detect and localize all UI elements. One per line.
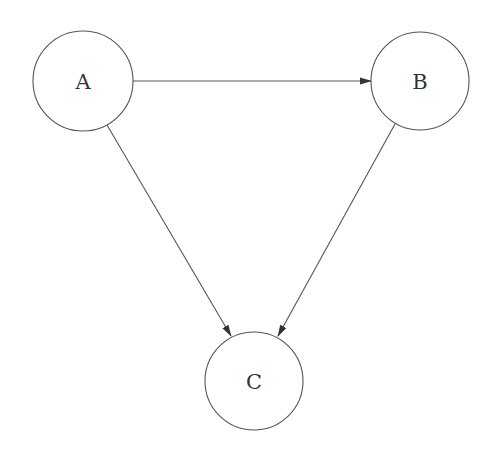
node-a: A (33, 31, 133, 131)
nodes-group: A B C (33, 31, 469, 430)
node-c-label: C (246, 370, 262, 394)
node-b-label: B (412, 70, 427, 94)
edges-group (107, 81, 395, 336)
edge-b-to-c (278, 124, 395, 336)
node-c: C (205, 332, 303, 430)
node-a-label: A (74, 70, 91, 94)
edge-a-to-c (107, 125, 231, 336)
node-b: B (371, 32, 469, 130)
graph-diagram: A B C (0, 0, 493, 460)
